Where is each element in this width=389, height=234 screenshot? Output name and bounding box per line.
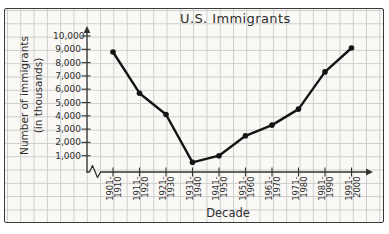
y-axis-title-line1: Number of immigrants (18, 26, 32, 166)
chart-title: U.S. Immigrants (180, 11, 291, 26)
chart-canvas: U.S. Immigrants Number of immigrants (in… (0, 0, 389, 234)
y-axis-title-line2: (in thousands) (31, 26, 45, 166)
y-axis-title: Number of immigrants (in thousands) (18, 26, 45, 166)
graph-paper (4, 8, 384, 223)
x-axis-title: Decade (198, 206, 258, 220)
